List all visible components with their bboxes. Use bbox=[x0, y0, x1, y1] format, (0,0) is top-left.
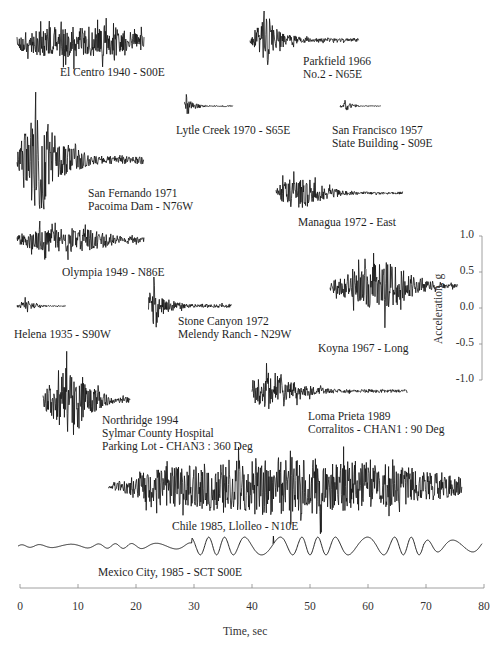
x-axis-title: Time, sec bbox=[223, 625, 267, 637]
trace-13 bbox=[18, 536, 482, 555]
y-tick-label: 1.0 bbox=[444, 228, 474, 240]
x-tick-label: 60 bbox=[362, 600, 374, 612]
y-tick-label: -0.5 bbox=[444, 336, 474, 348]
acceleration-scale-axis bbox=[479, 236, 482, 380]
trace-label-line: Helena 1935 - S90W bbox=[14, 328, 111, 341]
trace-11 bbox=[252, 363, 407, 409]
trace-label: San Fernando 1971Pacoima Dam - N76W bbox=[88, 187, 193, 213]
trace-label: Managua 1972 - East bbox=[298, 216, 396, 229]
trace-label: Mexico City, 1985 - SCT S00E bbox=[98, 566, 242, 579]
trace-label-line: Corralitos - CHAN1 : 90 Deg bbox=[308, 423, 444, 436]
trace-label-line: Parking Lot - CHAN3 : 360 Deg bbox=[102, 440, 253, 453]
trace-label-line: Stone Canyon 1972 bbox=[178, 315, 291, 328]
trace-label-line: Loma Prieta 1989 bbox=[308, 410, 444, 423]
trace-label: Northridge 1994Sylmar County HospitalPar… bbox=[102, 414, 253, 453]
x-tick-label: 80 bbox=[478, 600, 490, 612]
x-tick-label: 0 bbox=[17, 600, 23, 612]
trace-label: Lytle Creek 1970 - S65E bbox=[176, 124, 290, 137]
trace-8 bbox=[17, 297, 66, 312]
trace-label: Olympia 1949 - N86E bbox=[62, 266, 165, 279]
trace-label-line: Pacoima Dam - N76W bbox=[88, 200, 193, 213]
trace-label-line: Olympia 1949 - N86E bbox=[62, 266, 165, 279]
trace-label-line: San Francisco 1957 bbox=[332, 124, 433, 137]
y-axis-title: Acceleration, g bbox=[432, 274, 444, 344]
x-tick-label: 30 bbox=[188, 600, 200, 612]
trace-label: San Francisco 1957State Building - S09E bbox=[332, 124, 433, 150]
trace-label-line: Sylmar County Hospital bbox=[102, 427, 253, 440]
trace-label-line: San Fernando 1971 bbox=[88, 187, 193, 200]
trace-label-line: Northridge 1994 bbox=[102, 414, 253, 427]
accelerogram-traces bbox=[17, 11, 482, 555]
trace-label-line: Lytle Creek 1970 - S65E bbox=[176, 124, 290, 137]
trace-label-line: Chile 1985, Llolleo - N10E bbox=[172, 520, 298, 533]
trace-label-line: Managua 1972 - East bbox=[298, 216, 396, 229]
trace-5 bbox=[276, 172, 403, 208]
y-tick-label: 0.0 bbox=[444, 300, 474, 312]
trace-0 bbox=[17, 18, 144, 69]
time-axis bbox=[20, 584, 484, 588]
trace-3 bbox=[340, 100, 381, 110]
x-tick-label: 40 bbox=[246, 600, 258, 612]
trace-label: Loma Prieta 1989Corralitos - CHAN1 : 90 … bbox=[308, 410, 444, 436]
trace-label: Koyna 1967 - Long bbox=[318, 342, 408, 355]
trace-label-line: State Building - S09E bbox=[332, 137, 433, 150]
trace-label-line: Koyna 1967 - Long bbox=[318, 342, 408, 355]
trace-label: El Centro 1940 - S00E bbox=[60, 66, 165, 79]
trace-label-line: Parkfield 1966 bbox=[303, 55, 371, 68]
trace-label: Helena 1935 - S90W bbox=[14, 328, 111, 341]
x-tick-label: 10 bbox=[72, 600, 84, 612]
trace-label-line: El Centro 1940 - S00E bbox=[60, 66, 165, 79]
y-tick-label: 0.5 bbox=[444, 264, 474, 276]
x-tick-label: 50 bbox=[304, 600, 316, 612]
trace-label: Parkfield 1966No.2 - N65E bbox=[303, 55, 371, 81]
y-tick-label: -1.0 bbox=[444, 372, 474, 384]
trace-label: Stone Canyon 1972Melendy Ranch - N29W bbox=[178, 315, 291, 341]
trace-label-line: No.2 - N65E bbox=[303, 68, 371, 81]
trace-label: Chile 1985, Llolleo - N10E bbox=[172, 520, 298, 533]
x-tick-label: 20 bbox=[130, 600, 142, 612]
trace-6 bbox=[17, 221, 144, 260]
trace-2 bbox=[184, 94, 233, 113]
x-tick-label: 70 bbox=[420, 600, 432, 612]
trace-label-line: Mexico City, 1985 - SCT S00E bbox=[98, 566, 242, 579]
trace-label-line: Melendy Ranch - N29W bbox=[178, 328, 291, 341]
